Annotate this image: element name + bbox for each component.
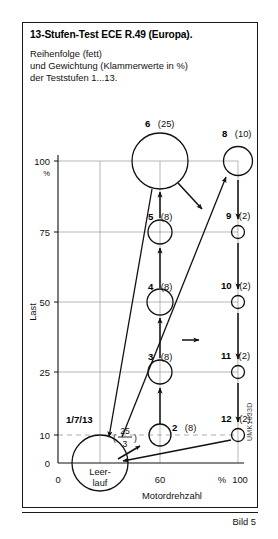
- label-step-8-num: 8: [222, 128, 228, 139]
- x-axis-title: Motordrehzahl: [142, 490, 202, 501]
- fraction-numerator: 25: [120, 426, 130, 436]
- label-step-4-num: 4: [148, 281, 154, 292]
- label-step-5-num: 5: [148, 211, 154, 222]
- arrow-6-to-7-idle: [109, 189, 152, 437]
- label-idle-line2: lauf: [93, 478, 108, 488]
- label-step-6: 6 (25): [145, 113, 174, 130]
- y-tick-50: 50: [40, 297, 50, 308]
- figure-root: 13-Stufen-Test ECE R.49 (Europa). Reihen…: [0, 0, 278, 539]
- arrow-1-to-2: [118, 446, 140, 459]
- x-tick-60: 60: [155, 474, 165, 485]
- arrow-7-idle-to-8: [122, 177, 226, 437]
- label-step-6-num: 6: [145, 118, 150, 129]
- y-axis-unit: %: [43, 169, 50, 178]
- arrow-6-stub: [178, 183, 202, 209]
- y-tick-75: 75: [40, 227, 50, 238]
- label-step-4-weight: (8): [161, 281, 172, 292]
- chart-svg: 100 % 75 50 25 10 0 Last 0 60 % 100 Moto…: [0, 0, 278, 539]
- label-step-1-7-13: 1/7/13: [66, 414, 93, 425]
- label-step-3-num: 3: [148, 351, 153, 362]
- label-step-2-num: 2: [172, 422, 177, 433]
- label-step-8: 8 (10): [222, 123, 251, 140]
- sequence-arrows: [109, 177, 238, 461]
- x-axis-unit: %: [218, 474, 226, 485]
- label-step-10-weight: (2): [239, 280, 250, 291]
- fraction-denominator: 3: [123, 439, 128, 449]
- data-markers: [72, 133, 253, 491]
- x-tick-100: 100: [232, 474, 248, 485]
- label-step-2: 2 (8): [172, 417, 196, 434]
- label-step-10-num: 10: [221, 280, 232, 291]
- label-step-11: 11 (2): [221, 345, 250, 362]
- y-tick-100: 100: [34, 156, 50, 167]
- figure-source-code: UMK1633D: [246, 402, 253, 441]
- label-step-11-weight: (2): [239, 350, 250, 361]
- label-idle-weight-fraction: ( 25 3 ): [113, 426, 137, 449]
- label-step-9-weight: (2): [239, 210, 250, 221]
- footer-separator: [22, 512, 258, 513]
- label-step-10: 10 (2): [221, 275, 251, 292]
- label-step-8-weight: (10): [235, 128, 252, 139]
- y-axis-title: Last: [27, 303, 38, 321]
- label-step-2-weight: (8): [185, 422, 196, 433]
- y-tick-0: 0: [45, 458, 50, 469]
- y-tick-10: 10: [40, 430, 50, 441]
- label-step-11-num: 11: [221, 350, 232, 361]
- label-step-6-weight: (25): [158, 118, 175, 129]
- axis-ticks: [54, 161, 58, 435]
- label-idle-line1: Leer-: [89, 467, 110, 477]
- x-tick-0: 0: [55, 474, 60, 485]
- figure-caption: Bild 5: [0, 516, 256, 527]
- label-step-9-num: 9: [226, 210, 231, 221]
- y-tick-25: 25: [40, 367, 50, 378]
- label-step-3-weight: (8): [161, 351, 172, 362]
- fraction-paren-open: (: [113, 433, 116, 443]
- arrow-12-to-13-idle: [123, 440, 231, 461]
- label-step-5-weight: (8): [161, 211, 172, 222]
- fraction-paren-close: ): [134, 433, 137, 443]
- label-step-12-num: 12: [221, 413, 232, 424]
